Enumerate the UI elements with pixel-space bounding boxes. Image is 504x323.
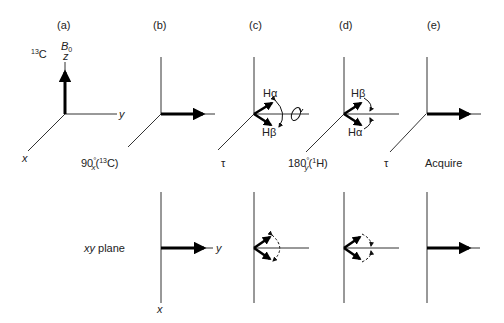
h-beta-vector — [344, 103, 361, 114]
pulse-180y-1h-label: 180°y(1H) — [288, 156, 328, 172]
panel-c-tag: (c) — [249, 19, 262, 31]
delay-tau-label: τ — [221, 157, 226, 169]
h-alpha-vector — [344, 114, 361, 125]
precession-arrow-top — [364, 98, 371, 111]
x-axis — [128, 114, 161, 147]
x-axis — [306, 114, 344, 152]
h-alpha-vector — [254, 237, 270, 248]
acquire-label: Acquire — [425, 157, 462, 169]
panel-c: (c) Hα Hβ τ — [218, 19, 309, 169]
panel-a: (a) 13C B0 z y x — [21, 19, 126, 164]
y-axis-label: y — [118, 108, 126, 120]
inept-vector-diagram: (a) 13C B0 z y x (b) 90°x(13C) (c) Hα — [0, 0, 504, 323]
h-alpha-label: Hα — [263, 87, 278, 99]
precession-arrow-bottom — [364, 118, 371, 129]
panel-e-tag: (e) — [427, 19, 440, 31]
panel-d: (d) Hβ Hα 180°y(1H) — [288, 19, 399, 172]
xy-panel-d — [344, 192, 399, 303]
panel-a-tag: (a) — [57, 19, 70, 31]
xy-panel-b: y x — [156, 192, 223, 315]
h-beta-vector — [254, 114, 271, 125]
h-alpha-vector — [344, 248, 360, 259]
xy-panel-c — [254, 192, 309, 303]
h-alpha-label: Hα — [348, 126, 363, 138]
h-beta-vector — [344, 237, 360, 248]
delay-tau-label: τ — [384, 157, 389, 169]
h-beta-label: Hβ — [351, 87, 365, 99]
precession-arrow-bottom — [362, 251, 371, 262]
x-axis-prev — [390, 114, 426, 152]
y-axis-label: y — [215, 242, 223, 254]
x-axis — [28, 114, 65, 151]
panel-d-tag: (d) — [339, 19, 352, 31]
nucleus-label: 13C — [31, 48, 47, 60]
panel-e: (e) τ Acquire — [384, 19, 481, 169]
x-axis — [218, 114, 254, 150]
panel-b-tag: (b) — [153, 19, 166, 31]
xy-panel-e — [427, 192, 480, 303]
precession-arrow-top — [362, 234, 371, 246]
h-alpha-vector — [254, 103, 272, 114]
h-beta-label: Hβ — [262, 126, 276, 138]
z-axis-label: z — [62, 50, 69, 62]
pulse-90x-13c-label: 90°x(13C) — [81, 156, 119, 172]
x-axis-label: x — [21, 152, 28, 164]
h-beta-vector — [254, 248, 270, 259]
xy-plane-label: xy plane — [83, 242, 125, 254]
x-axis-label: x — [156, 303, 163, 315]
panel-b: (b) 90°x(13C) — [81, 19, 215, 172]
